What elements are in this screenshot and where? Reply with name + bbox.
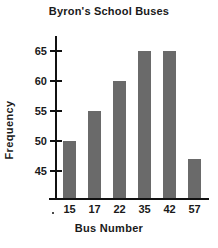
- bar: [188, 159, 201, 198]
- origin-dot-mark: [52, 212, 54, 214]
- x-tick-label: 15: [58, 203, 82, 215]
- x-tick-label: 22: [108, 203, 132, 215]
- x-tick-label: 57: [183, 203, 207, 215]
- bar: [63, 141, 76, 198]
- bar-chart: Byron's School Buses Frequency 455055606…: [0, 0, 218, 248]
- x-axis-line: [49, 198, 209, 200]
- x-tick-label: 35: [133, 203, 157, 215]
- x-tick-label: 17: [83, 203, 107, 215]
- bars-layer: [0, 0, 218, 198]
- bar: [163, 51, 176, 198]
- bar: [113, 81, 126, 198]
- x-tick-label: 42: [158, 203, 182, 215]
- bar: [88, 111, 101, 198]
- bar: [138, 51, 151, 198]
- x-axis-title: Bus Number: [0, 222, 218, 234]
